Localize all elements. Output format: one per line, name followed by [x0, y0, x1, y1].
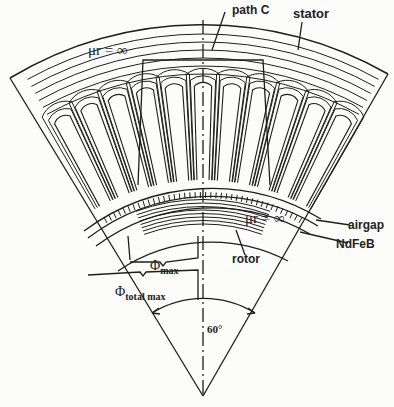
stator-label: stator: [293, 6, 329, 21]
diagram-root: path C stator μr = ∞ μr = ∞ airgap NdFeB…: [0, 0, 394, 407]
stator-leader: [298, 22, 302, 50]
phi-total-max-label: Φtotal max: [115, 284, 166, 300]
sector-drawing: [0, 0, 394, 407]
phi-max-label: Φmax: [150, 258, 179, 274]
ndfeb-label: NdFeB: [336, 237, 375, 251]
rotor-label: rotor: [232, 252, 260, 266]
stator-permeability-label: μr = ∞: [88, 42, 128, 59]
airgap-label: airgap: [348, 218, 384, 232]
path-c-leader: [212, 12, 225, 50]
stator-outer-arc: [10, 25, 388, 78]
airgap-leader: [316, 220, 350, 225]
angle-label: 60°: [207, 323, 222, 335]
path-c-label: path C: [232, 3, 269, 17]
left-boundary-line: [10, 78, 203, 396]
rotor-permeability-label: μr = ∞: [245, 210, 285, 227]
